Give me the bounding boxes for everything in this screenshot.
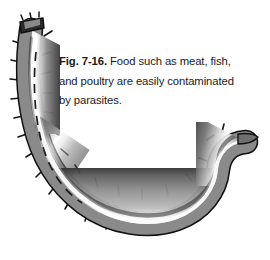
figure-number-label: Fig. 7-16.: [59, 55, 107, 67]
caption-line-1: Fig. 7-16. Food such as meat, fish,: [59, 52, 259, 72]
worm-shading: [6, 16, 258, 234]
caption-line-2: and poultry are easily contaminated: [59, 72, 259, 92]
figure-caption: Fig. 7-16. Food such as meat, fish, and …: [59, 52, 259, 111]
figure-container: Fig. 7-16. Food such as meat, fish, and …: [0, 0, 270, 260]
worm-body: [6, 12, 258, 234]
caption-line-1-text: Food such as meat, fish,: [110, 55, 231, 67]
caption-line-3: by parasites.: [59, 91, 259, 111]
parasitic-worm-illustration: [0, 0, 270, 260]
